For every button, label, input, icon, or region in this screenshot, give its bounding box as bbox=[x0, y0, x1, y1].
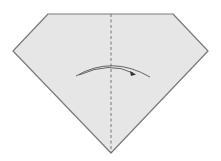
origami-diagram bbox=[0, 0, 221, 161]
paper-shape bbox=[13, 14, 208, 153]
diagram-canvas bbox=[0, 0, 221, 161]
